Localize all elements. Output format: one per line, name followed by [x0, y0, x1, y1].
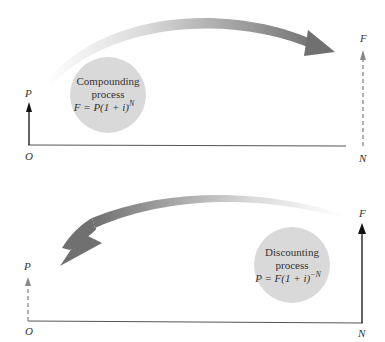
- compounding-future-arrow-icon: [360, 50, 366, 146]
- discounting-p-label: P: [23, 260, 31, 272]
- compounding-time-axis: [28, 145, 346, 146]
- compounding-label-line1: Compounding: [77, 75, 140, 87]
- discounting-diagram: Discounting process P = F(1 + i)−N P F O…: [23, 195, 366, 339]
- discounting-origin-label: O: [25, 325, 33, 337]
- compounding-formula: F = P(1 + i)N: [73, 99, 135, 114]
- compounding-present-arrow-icon: [26, 102, 32, 145]
- compounding-origin-label: O: [25, 150, 33, 162]
- discounting-n-label: N: [357, 327, 366, 339]
- compounding-n-label: N: [358, 152, 367, 164]
- compounding-diagram: Compounding process F = P(1 + i)N P F O …: [24, 18, 367, 164]
- discounting-time-axis: [28, 321, 363, 323]
- compounding-f-label: F: [359, 32, 367, 44]
- compounding-label-line2: process: [92, 88, 125, 100]
- discounting-future-arrow-icon: [358, 223, 366, 323]
- discounting-label-line2: process: [276, 259, 309, 271]
- discounting-f-label: F: [358, 207, 366, 219]
- discounting-label-line1: Discounting: [265, 246, 319, 258]
- time-value-diagram: Compounding process F = P(1 + i)N P F O …: [0, 0, 385, 342]
- discounting-present-arrow-icon: [25, 277, 31, 321]
- compounding-p-label: P: [24, 87, 32, 99]
